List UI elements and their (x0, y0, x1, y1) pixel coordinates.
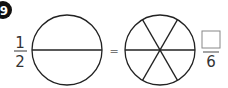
left-circle-halves (32, 15, 102, 85)
problem-number: 9 (0, 4, 8, 18)
right-denominator: 6 (206, 53, 216, 71)
right-fraction: 6 (202, 31, 220, 71)
left-numerator: 1 (15, 34, 25, 52)
equals-sign: = (109, 45, 118, 58)
answer-box[interactable] (202, 31, 220, 48)
left-denominator: 2 (15, 53, 25, 71)
problem-number-badge: 9 (0, 1, 12, 19)
left-fraction: 1 2 (14, 34, 27, 71)
right-circle-sixths (125, 15, 195, 85)
fraction-diagram: 9 1 2 = 6 (0, 0, 228, 88)
